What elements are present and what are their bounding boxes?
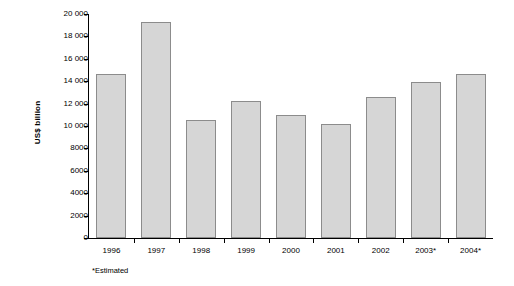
x-axis-line <box>88 238 493 239</box>
x-tick-mark <box>134 239 135 243</box>
x-tick-label: 2000 <box>269 246 314 255</box>
x-tick-label: 1998 <box>179 246 224 255</box>
x-tick-mark <box>224 239 225 243</box>
footnote: *Estimated <box>92 266 128 275</box>
bar <box>186 120 216 238</box>
y-tick-label: 20 000 <box>42 10 88 18</box>
x-tick-label: 2002 <box>358 246 403 255</box>
y-tick-label: 16 000 <box>42 55 88 63</box>
bar <box>411 82 441 238</box>
x-tick-mark <box>269 239 270 243</box>
x-tick-mark <box>179 239 180 243</box>
x-tick-mark <box>358 239 359 243</box>
y-tick-label: 6000 <box>42 167 88 175</box>
bar <box>96 74 126 238</box>
x-tick-mark <box>403 239 404 243</box>
bar-chart: US$ billion 0200040006000800010 00012 00… <box>0 0 514 286</box>
y-tick-label: 18 000 <box>42 32 88 40</box>
bar <box>456 74 486 238</box>
y-tick-label: 12 000 <box>42 100 88 108</box>
x-tick-label: 1996 <box>89 246 134 255</box>
x-tick-mark <box>313 239 314 243</box>
bar <box>141 22 171 238</box>
y-tick-label: 8000 <box>42 144 88 152</box>
bar <box>231 101 261 238</box>
y-tick-label: 10 000 <box>42 122 88 130</box>
bar <box>276 115 306 238</box>
x-tick-label: 2003* <box>403 246 448 255</box>
x-tick-label: 1999 <box>224 246 269 255</box>
bar <box>366 97 396 238</box>
y-axis-ticks: 0200040006000800010 00012 00014 00016 00… <box>34 0 88 286</box>
y-tick-label: 2000 <box>42 212 88 220</box>
y-tick-label: 4000 <box>42 189 88 197</box>
x-tick-label: 1997 <box>134 246 179 255</box>
plot-area <box>89 14 493 238</box>
x-tick-mark <box>448 239 449 243</box>
y-tick-label: 0 <box>42 234 88 242</box>
bar <box>321 124 351 238</box>
y-tick-label: 14 000 <box>42 77 88 85</box>
x-tick-label: 2004* <box>448 246 493 255</box>
x-tick-label: 2001 <box>313 246 358 255</box>
